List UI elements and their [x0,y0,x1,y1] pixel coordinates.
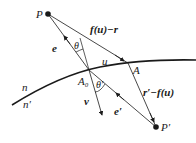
label-f-u-minus-r: f(u)−r [90,23,119,36]
f-arrow [115,55,124,61]
e-prime-arrow [116,93,124,100]
label-u: u [102,55,108,67]
label-A0: A₀ [77,75,89,87]
label-n-prime: n′ [23,98,32,110]
e-arrow [64,36,70,44]
label-e: e [52,42,57,54]
normal-upper [80,38,89,70]
label-e-prime: e′ [114,105,122,117]
label-P-prime: P′ [160,121,171,133]
point-P [45,11,51,17]
label-A: A [132,64,140,76]
label-nu: ν [84,95,89,107]
refraction-diagram: P f(u)−r e θ u A n n′ A₀ θ′ ν e′ r′−f(u)… [0,0,196,143]
point-P-prime [153,124,159,130]
label-theta: θ [74,40,79,51]
label-r-prime-minus-f-u: r′−f(u) [143,86,174,99]
label-theta-prime: θ′ [96,79,104,90]
nu-arrow [89,70,102,115]
label-n: n [22,81,28,93]
label-P: P [35,8,43,20]
r-arrow [150,113,154,122]
